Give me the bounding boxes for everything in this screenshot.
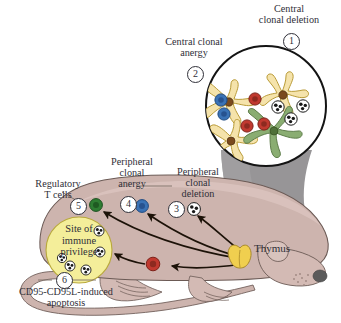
- apoptotic-cell: [65, 261, 75, 271]
- figure-canvas: Central clonal deletion 1 Central clonal…: [0, 0, 341, 323]
- immature-t-cell-red: [241, 120, 253, 132]
- label-peripheral-clonal-deletion: Peripheral clonal deletion: [158, 166, 238, 199]
- label-line: Central: [274, 3, 304, 14]
- immature-t-cell-blue: [218, 108, 230, 120]
- label-line: clonal deletion: [259, 14, 319, 25]
- apoptotic-cell: [272, 101, 284, 113]
- thymus-inset-magnifier: [203, 46, 326, 166]
- callout-number-2[interactable]: 2: [187, 66, 204, 83]
- label-line: clonal: [186, 177, 211, 188]
- label-line: Site of: [65, 223, 92, 234]
- apoptotic-cell: [297, 100, 309, 112]
- label-central-clonal-anergy: Central clonal anergy: [142, 36, 246, 58]
- apoptotic-cell: [81, 265, 91, 275]
- label-line: Central clonal: [165, 36, 222, 47]
- callout-number-5[interactable]: 5: [70, 198, 87, 215]
- label-cd95-apoptosis: CD95-CD95L-induced apoptosis: [0, 286, 132, 308]
- callout-number-4[interactable]: 4: [120, 196, 137, 213]
- label-regulatory-t-cells: Regulatory T cells: [18, 178, 98, 200]
- label-line: privilege: [61, 246, 98, 257]
- label-line: Peripheral: [111, 156, 153, 167]
- regulatory-t-cell-marker: [90, 199, 103, 212]
- callout-number-1[interactable]: 1: [283, 33, 300, 50]
- label-line: Peripheral: [177, 166, 219, 177]
- label-line: clonal: [120, 167, 145, 178]
- label-line: deletion: [182, 188, 215, 199]
- label-line: T cells: [44, 189, 71, 200]
- label-line: CD95-CD95L-induced: [19, 286, 113, 297]
- mouse-nose: [313, 270, 327, 282]
- immature-t-cell-red: [249, 93, 261, 105]
- apoptotic-cell: [285, 113, 297, 125]
- apoptotic-t-cell-marker: [146, 257, 160, 271]
- callout-number-3[interactable]: 3: [168, 201, 185, 218]
- label-line: apoptosis: [47, 297, 86, 308]
- deleted-t-cell-marker: [188, 203, 201, 216]
- immature-t-cell-blue: [215, 94, 227, 106]
- label-thymus: Thymus: [254, 243, 308, 255]
- immature-t-cell-red: [258, 118, 270, 130]
- label-central-clonal-deletion: Central clonal deletion: [240, 3, 338, 25]
- label-line: Regulatory: [35, 178, 80, 189]
- anergic-t-cell-marker: [136, 200, 149, 213]
- label-line: anergy: [180, 47, 208, 58]
- label-site-of-immune-privilege: Site of immune privilege: [42, 223, 116, 258]
- label-line: immune: [62, 235, 96, 246]
- label-line: anergy: [118, 178, 146, 189]
